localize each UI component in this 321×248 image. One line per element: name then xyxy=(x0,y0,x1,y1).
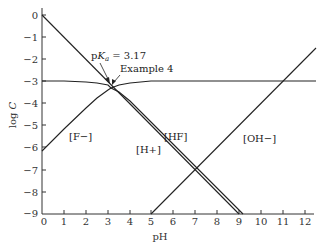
svg-text:10: 10 xyxy=(255,216,268,227)
svg-text:−7: −7 xyxy=(23,165,38,176)
example-4-annotation: Example 4 xyxy=(120,63,173,74)
svg-text:−5: −5 xyxy=(23,120,38,131)
svg-text:11: 11 xyxy=(277,216,290,227)
svg-text:9: 9 xyxy=(236,216,242,227)
svg-text:−4: −4 xyxy=(23,98,38,109)
svg-text:2: 2 xyxy=(83,216,89,227)
pka-arrow xyxy=(100,63,108,79)
y-axis-title: log C xyxy=(7,101,18,128)
svg-text:4: 4 xyxy=(127,216,133,227)
svg-text:−3: −3 xyxy=(23,76,38,87)
svg-text:5: 5 xyxy=(148,216,154,227)
pka-arrowhead xyxy=(105,77,110,84)
svg-text:0: 0 xyxy=(41,216,47,227)
svg-text:12: 12 xyxy=(299,216,312,227)
svg-text:−8: −8 xyxy=(23,187,38,198)
h-plus-line xyxy=(42,15,239,214)
svg-text:7: 7 xyxy=(192,216,198,227)
pka-annotation: pKa = 3.17 xyxy=(91,50,146,63)
svg-text:0: 0 xyxy=(32,10,38,21)
oh-minus-label: [OH−] xyxy=(243,133,276,144)
svg-text:8: 8 xyxy=(214,216,220,227)
svg-text:−2: −2 xyxy=(23,54,38,65)
y-ticks xyxy=(42,15,46,192)
h-plus-label: [H+] xyxy=(136,144,161,155)
x-ticks xyxy=(64,210,305,214)
log-concentration-chart: 0 −1 −2 −3 −4 −5 −6 −7 −8 −9 0 1 2 3 4 5… xyxy=(0,0,321,248)
x-axis-title: pH xyxy=(152,231,167,242)
svg-text:−1: −1 xyxy=(23,32,38,43)
svg-text:−9: −9 xyxy=(23,208,38,219)
svg-text:1: 1 xyxy=(61,216,67,227)
hf-label: [HF] xyxy=(164,131,188,142)
svg-text:3: 3 xyxy=(105,216,111,227)
svg-text:−6: −6 xyxy=(23,142,38,153)
y-tick-labels: 0 −1 −2 −3 −4 −5 −6 −7 −8 −9 xyxy=(23,10,38,219)
svg-text:6: 6 xyxy=(170,216,176,227)
f-minus-label: [F−] xyxy=(69,131,92,142)
x-tick-labels: 0 1 2 3 4 5 6 7 8 9 10 11 12 xyxy=(41,216,312,227)
